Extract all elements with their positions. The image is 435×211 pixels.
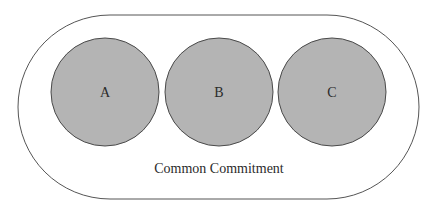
common-commitment-label: Common Commitment <box>154 161 284 176</box>
circle-c-label: C <box>327 85 336 100</box>
circle-c: C <box>278 38 386 146</box>
circle-a: A <box>51 38 159 146</box>
circle-b-label: B <box>214 85 223 100</box>
diagram-canvas: A B C Common Commitment <box>0 0 435 211</box>
circle-b: B <box>165 38 273 146</box>
circle-a-label: A <box>100 85 111 100</box>
